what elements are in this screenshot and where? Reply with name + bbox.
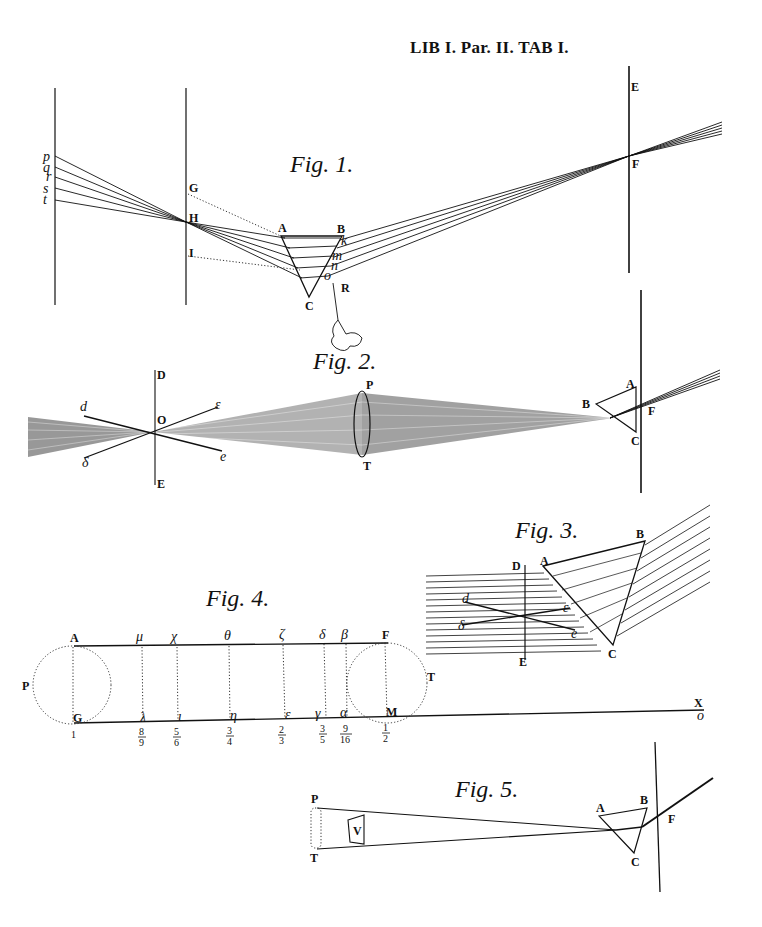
svg-text:R: R <box>341 281 350 295</box>
svg-text:C: C <box>608 647 617 661</box>
svg-text:6: 6 <box>174 737 179 748</box>
svg-text:λ: λ <box>139 710 146 725</box>
svg-text:θ: θ <box>224 628 231 643</box>
svg-text:D: D <box>157 368 166 382</box>
object-pt <box>311 808 321 848</box>
svg-text:F: F <box>648 404 655 418</box>
circle-p <box>33 646 111 724</box>
svg-text:δ: δ <box>458 618 465 633</box>
incident-rays <box>55 156 186 222</box>
svg-text:P: P <box>311 792 318 806</box>
ray-from-p <box>317 808 616 830</box>
svg-text:T: T <box>427 670 435 684</box>
svg-text:G: G <box>189 181 198 195</box>
svg-text:9: 9 <box>343 723 348 734</box>
svg-text:F: F <box>382 628 389 642</box>
svg-text:E: E <box>157 477 165 491</box>
svg-text:M: M <box>386 705 397 719</box>
svg-text:3: 3 <box>227 725 232 736</box>
svg-text:ε: ε <box>215 397 221 412</box>
engraving-plate: LIB I. Par. II. TAB I. Fig. 1. <box>0 0 762 927</box>
svg-text:η: η <box>230 708 237 723</box>
svg-text:γ: γ <box>315 706 321 721</box>
svg-text:δ: δ <box>319 627 326 642</box>
light-bundle-left <box>28 417 153 457</box>
figure-4-top-labels: A μ χ θ ζ δ β F <box>70 627 389 645</box>
ray-inside-prism-5 <box>616 827 642 830</box>
svg-text:B: B <box>636 527 644 541</box>
svg-text:8: 8 <box>139 726 144 737</box>
svg-text:d: d <box>80 399 88 414</box>
svg-text:H: H <box>189 211 199 225</box>
svg-text:O: O <box>157 413 166 427</box>
svg-text:V: V <box>353 824 362 838</box>
svg-text:T: T <box>363 459 371 473</box>
svg-text:e: e <box>571 626 577 641</box>
svg-text:C: C <box>305 299 314 313</box>
figure-3-title: Fig. 3. <box>514 517 578 543</box>
svg-text:1: 1 <box>71 729 76 740</box>
plate-header: LIB I. Par. II. TAB I. <box>410 38 569 58</box>
svg-text:C: C <box>631 434 640 448</box>
dotted-line-g <box>188 194 285 238</box>
svg-text:e: e <box>220 449 226 464</box>
svg-text:3: 3 <box>320 723 325 734</box>
ray-from-t <box>317 830 616 849</box>
svg-text:3: 3 <box>279 735 284 746</box>
svg-text:μ: μ <box>135 629 143 644</box>
svg-text:F: F <box>632 157 639 171</box>
figure-3: Fig. 3. <box>426 505 710 669</box>
figure-4: Fig. 4. A μ χ θ ζ δ β <box>22 585 704 748</box>
svg-text:α: α <box>340 705 348 720</box>
svg-text:d: d <box>462 591 470 606</box>
svg-text:1: 1 <box>383 722 388 733</box>
optics-diagram: Fig. 1. <box>0 0 762 927</box>
svg-text:B: B <box>582 397 590 411</box>
figure-1: Fig. 1. <box>42 66 722 351</box>
figure-2: Fig. 2. <box>28 290 720 493</box>
svg-text:5: 5 <box>174 726 179 737</box>
svg-text:P: P <box>366 378 373 392</box>
svg-text:χ: χ <box>169 629 178 644</box>
emergent-rays-3 <box>617 505 710 636</box>
svg-text:2: 2 <box>383 733 388 744</box>
svg-text:δ: δ <box>82 455 89 470</box>
figure-5-title: Fig. 5. <box>454 776 518 802</box>
svg-text:E: E <box>519 655 527 669</box>
svg-text:F: F <box>668 812 675 826</box>
svg-text:A: A <box>540 554 549 568</box>
figure-2-title: Fig. 2. <box>312 348 376 374</box>
svg-text:G: G <box>73 711 82 725</box>
svg-text:T: T <box>310 851 318 865</box>
figure-4-fractions: 1 8 9 5 6 3 4 2 3 3 5 9 16 1 <box>71 722 390 748</box>
svg-text:n: n <box>331 258 338 273</box>
svg-text:ι: ι <box>178 709 182 724</box>
svg-text:k: k <box>341 233 348 248</box>
figure-5-labels: P T V A B C F <box>310 792 675 869</box>
svg-text:4: 4 <box>227 736 232 747</box>
figure-1-title: Fig. 1. <box>289 151 353 177</box>
svg-text:A: A <box>626 377 635 391</box>
svg-text:16: 16 <box>340 734 350 745</box>
svg-text:C: C <box>631 855 640 869</box>
svg-text:B: B <box>640 793 648 807</box>
svg-text:E: E <box>631 80 639 94</box>
svg-text:A: A <box>278 221 287 235</box>
svg-text:P: P <box>22 679 29 693</box>
svg-text:o: o <box>697 708 704 723</box>
emergent-rays <box>328 122 722 276</box>
svg-text:A: A <box>596 801 605 815</box>
svg-text:o: o <box>324 268 331 283</box>
svg-text:ζ: ζ <box>279 627 286 642</box>
dotted-line-i <box>188 256 300 270</box>
svg-text:2: 2 <box>279 724 284 735</box>
svg-text:ε: ε <box>563 600 569 615</box>
figure-5: Fig. 5. P T V A B C F <box>310 742 713 892</box>
figure-1-labels: p q r s t G H I A B C k m n o R E F <box>42 80 639 313</box>
svg-text:D: D <box>512 559 521 573</box>
svg-text:5: 5 <box>320 734 325 745</box>
svg-text:I: I <box>189 246 194 260</box>
emergent-ray-5 <box>642 778 713 827</box>
svg-text:ε: ε <box>285 707 291 722</box>
svg-text:β: β <box>340 627 348 642</box>
